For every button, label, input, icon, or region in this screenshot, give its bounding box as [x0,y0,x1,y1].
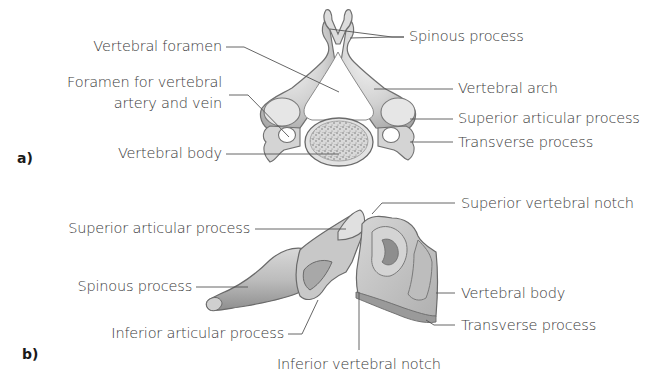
vertebra-diagram: a) b) Vertebral foramen Foramen for vert… [0,0,664,389]
label-superior-articular-process-a: Superior articular process [458,110,640,127]
label-foramen-artery-line1: Foramen for vertebral [67,74,222,91]
label-transverse-process-a: Transverse process [458,134,593,151]
label-inferior-vertebral-notch: Inferior vertebral notch [277,356,441,373]
vertebra-superior-view [260,10,415,166]
label-inferior-articular-process: Inferior articular process [111,325,284,342]
label-vertebral-arch: Vertebral arch [458,80,558,97]
label-transverse-process-b: Transverse process [461,317,596,334]
label-spinous-process-a: Spinous process [409,28,524,45]
label-superior-articular-process-b: Superior articular process [68,220,250,237]
label-vertebral-body-b: Vertebral body [461,285,565,302]
label-vertebral-foramen: Vertebral foramen [93,38,222,55]
label-superior-vertebral-notch: Superior vertebral notch [461,195,634,212]
panel-a-tag: a) [17,150,33,166]
label-vertebral-body-a: Vertebral body [118,145,222,162]
label-foramen-artery-line2: artery and vein [114,95,222,112]
panel-b-tag: b) [22,346,38,362]
label-spinous-process-b: Spinous process [77,278,192,295]
